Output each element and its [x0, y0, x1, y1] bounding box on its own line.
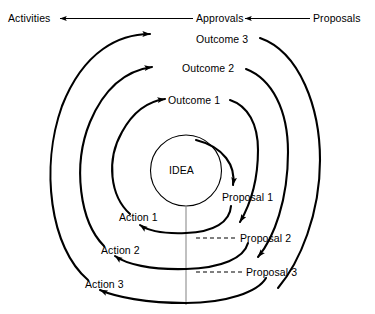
- spiral-graphic: [0, 0, 375, 314]
- node-label-proposals: Proposals: [313, 12, 361, 24]
- arc-outcome-2-to-proposal-3: [246, 69, 288, 257]
- node-label-outcome-3: Outcome 3: [196, 33, 248, 45]
- node-label-outcome-1: Outcome 1: [168, 94, 220, 106]
- node-label-outcome-2: Outcome 2: [182, 62, 234, 74]
- node-label-proposal-2: Proposal 2: [240, 232, 291, 244]
- arc-proposal-3-to-action-3: [100, 278, 266, 303]
- arc-action-1-to-outcome-1: [112, 99, 165, 214]
- node-label-action-1: Action 1: [119, 211, 158, 223]
- node-label-action-2: Action 2: [101, 244, 140, 256]
- spiral-diagram: Activities Approvals Proposals Outcome 3…: [0, 0, 375, 314]
- arc-idea-to-proposal-1: [196, 140, 233, 185]
- node-label-activities: Activities: [8, 12, 50, 24]
- arc-outcome-1-to-proposal-2: [230, 100, 258, 222]
- idea-label: IDEA: [169, 164, 194, 176]
- node-label-proposal-1: Proposal 1: [222, 191, 273, 203]
- node-label-approvals: Approvals: [196, 12, 244, 24]
- node-label-proposal-3: Proposal 3: [246, 266, 297, 278]
- node-label-action-3: Action 3: [85, 278, 124, 290]
- arc-outer-right-tail: [260, 38, 320, 288]
